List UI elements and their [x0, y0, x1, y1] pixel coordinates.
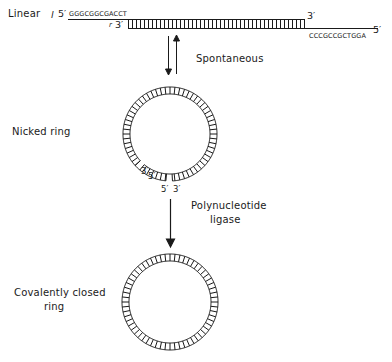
bottom-left-end: 3′ — [115, 19, 123, 30]
left-cohesive-sequence: GGGCGGCGACCT — [69, 10, 127, 18]
nick2-3prime: 3′ — [173, 184, 180, 194]
spontaneous-label: Spontaneous — [196, 53, 264, 64]
closed-ring — [122, 254, 218, 350]
base-pair-rungs — [133, 20, 301, 29]
ligase-label-line2: ligase — [210, 214, 241, 225]
bottom-right-end: 5′ — [373, 24, 381, 35]
ligase-label-line1: Polynucleotide — [191, 200, 267, 211]
closed-ring-label-line1: Covalently closed — [14, 287, 106, 298]
closed-ring-label-line2: ring — [44, 301, 64, 312]
nick1-5prime: 5′ — [148, 171, 155, 181]
right-cohesive-sequence: CCCGCCGCTGGA — [309, 32, 366, 40]
spontaneous-arrows — [166, 35, 180, 75]
mark-r: r — [109, 21, 112, 29]
top-right-end: 3′ — [307, 10, 315, 21]
linear-label: Linear — [8, 8, 40, 19]
nicked-ring-label: Nicked ring — [12, 126, 71, 137]
mark-l: l — [51, 9, 54, 20]
ligase-arrow — [167, 199, 175, 247]
nick2-5prime: 5′ — [161, 184, 168, 194]
top-left-end: 5′ — [58, 8, 66, 19]
nicked-ring — [123, 87, 217, 181]
